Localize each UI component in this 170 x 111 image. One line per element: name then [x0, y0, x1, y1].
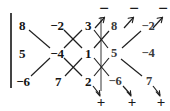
sarrus-rule-diagram: 8 −2 3 8 −2 5 −4 1 5 −4 −6 7 2 −6 7 − − …: [0, 0, 170, 111]
down-diagonal-seg: [121, 59, 142, 76]
negative-sign-1: −: [99, 0, 109, 17]
up-arrow-line-1: [95, 18, 104, 28]
matrix-entry-r3c1: −6: [16, 75, 29, 88]
repeated-entry-r3c4: −6: [109, 75, 122, 88]
repeated-entry-r2c5: −4: [142, 47, 155, 60]
up-arrow-line-2: [124, 18, 133, 28]
matrix-entry-r3c2: 7: [55, 75, 61, 88]
negative-sign-3: −: [158, 0, 168, 17]
matrix-entry-r2c3: 1: [85, 47, 91, 60]
matrix-entry-r1c3: 3: [85, 19, 91, 32]
matrix-entry-r2c2: −4: [50, 47, 63, 60]
repeated-entry-r1c5: −2: [142, 20, 155, 33]
up-diagonal-seg: [31, 58, 50, 76]
negative-sign-2: −: [129, 0, 139, 17]
up-diagonal-seg: [122, 31, 141, 48]
matrix-entry-r2c1: 5: [19, 47, 25, 60]
positive-sign-2: +: [128, 95, 137, 110]
matrix-entry-r1c2: −2: [50, 19, 63, 32]
positive-sign-1: +: [97, 95, 106, 110]
repeated-entry-r2c4: 5: [111, 47, 117, 60]
positive-sign-3: +: [157, 95, 166, 110]
matrix-entry-r1c1: 8: [19, 19, 25, 32]
repeated-entry-r1c4: 8: [111, 20, 117, 33]
down-diagonal-seg: [29, 30, 50, 48]
repeated-entry-r3c5: 7: [146, 75, 152, 88]
matrix-entry-r3c3: 2: [85, 75, 91, 88]
